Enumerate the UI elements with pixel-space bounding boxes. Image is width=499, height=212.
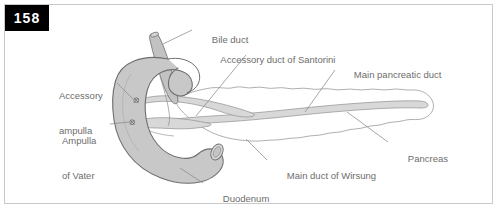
anatomy-figure: 158 (0, 0, 499, 212)
label-main-pancreatic-duct: Main pancreatic duct (338, 57, 442, 92)
label-accessory-duct-santorini-line-1: Accessory duct of Santorini (220, 54, 335, 65)
leader-main-duct-of-wirsung (246, 139, 267, 160)
label-main-pancreatic-duct-line-1: Main pancreatic duct (354, 69, 442, 80)
label-accessory-duct-santorini: Accessory duct of Santorini (205, 42, 335, 77)
label-duodenum: Duodenum (207, 181, 269, 212)
leader-bile-duct (163, 30, 192, 44)
label-ampulla-of-vater: Ampulla of Vater (62, 112, 96, 204)
label-accessory-ampulla-line-1: Accessory (59, 90, 103, 102)
label-main-duct-of-wirsung: Main duct of Wirsung (271, 158, 376, 193)
label-ampulla-of-vater-line-2: of Vater (62, 170, 96, 182)
label-duodenum-line-1: Duodenum (223, 193, 269, 204)
label-pancreas: Pancreas (392, 141, 448, 176)
label-main-duct-of-wirsung-line-1: Main duct of Wirsung (287, 170, 376, 181)
label-ampulla-of-vater-line-1: Ampulla (62, 135, 96, 147)
label-pancreas-line-1: Pancreas (408, 153, 448, 164)
